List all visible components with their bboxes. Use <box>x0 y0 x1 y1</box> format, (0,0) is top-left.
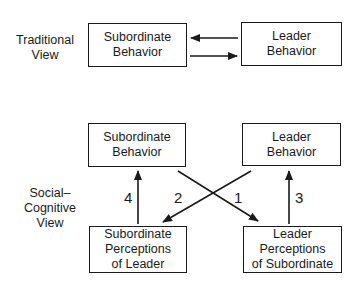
arrow-1 <box>178 171 258 221</box>
arrow-3-label: 3 <box>295 190 303 205</box>
arrow-4-label: 4 <box>124 190 132 205</box>
arrow-1-label: 1 <box>234 190 242 205</box>
arrows-layer <box>0 0 361 285</box>
arrow-2-label: 2 <box>174 190 182 205</box>
